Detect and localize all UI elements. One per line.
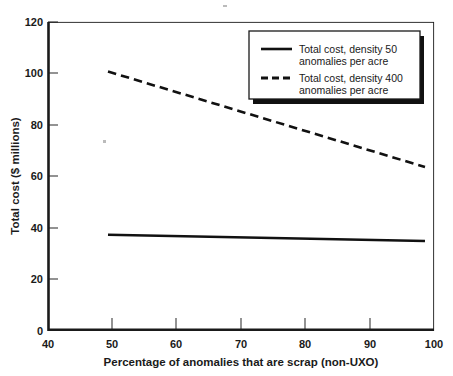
y-tick-label: 120 bbox=[25, 16, 43, 28]
scan-speck bbox=[223, 5, 227, 7]
y-tick-label: 80 bbox=[31, 119, 43, 131]
legend-entry-0-line2: anomalies per acre bbox=[299, 55, 388, 67]
y-tick-label: 40 bbox=[31, 222, 43, 234]
y-tick-label: 60 bbox=[31, 170, 43, 182]
x-tick-labels: 40 50 60 70 80 90 100 bbox=[42, 338, 443, 350]
x-tick-label: 80 bbox=[299, 338, 311, 350]
x-tick-label: 60 bbox=[170, 338, 182, 350]
x-tick-label: 50 bbox=[106, 338, 118, 350]
legend-entry-1-line2: anomalies per acre bbox=[299, 84, 388, 96]
chart-canvas: 120 100 80 60 40 20 0 40 50 60 70 80 90 … bbox=[0, 0, 453, 376]
y-tick-label: 100 bbox=[25, 67, 43, 79]
y-tick-label: 20 bbox=[31, 273, 43, 285]
x-tick-label: 100 bbox=[425, 338, 443, 350]
x-tick-label: 70 bbox=[235, 338, 247, 350]
chart-figure: 120 100 80 60 40 20 0 40 50 60 70 80 90 … bbox=[0, 0, 453, 376]
legend-entry-1-line1: Total cost, density 400 bbox=[299, 72, 403, 84]
y-axis-title: Total cost ($ millions) bbox=[9, 117, 21, 235]
scan-speck bbox=[103, 140, 106, 143]
y-tick-label: 0 bbox=[37, 325, 43, 337]
legend: Total cost, density 50 anomalies per acr… bbox=[249, 31, 424, 104]
y-tick-labels: 120 100 80 60 40 20 0 bbox=[25, 16, 43, 337]
x-tick-label: 40 bbox=[42, 338, 54, 350]
x-axis-title: Percentage of anomalies that are scrap (… bbox=[104, 356, 379, 368]
x-tick-label: 90 bbox=[364, 338, 376, 350]
legend-entry-0-line1: Total cost, density 50 bbox=[299, 43, 397, 55]
